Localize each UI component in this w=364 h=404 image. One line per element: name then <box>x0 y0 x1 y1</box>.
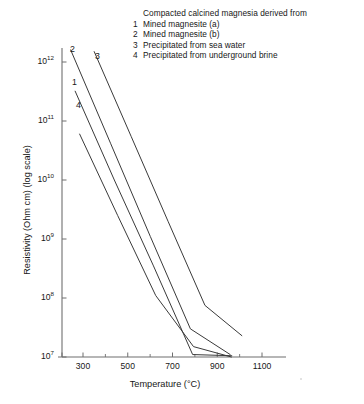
y-tick-exponent: 8 <box>51 290 54 297</box>
legend-item-label: Precipitated from sea water <box>143 40 361 51</box>
y-tick-mantissa: 10 <box>41 351 51 361</box>
x-tick-label: 900 <box>202 361 232 371</box>
curve-label-3: 3 <box>95 51 100 61</box>
y-tick-exponent: 7 <box>51 349 54 356</box>
legend-item-label: Mined magnesite (b) <box>143 29 361 40</box>
curve-label-4: 4 <box>76 100 81 110</box>
curve-3 <box>94 52 242 336</box>
chart-figure: Compacted calcined magnesia derived from… <box>0 0 364 404</box>
y-tick-label: 1012 <box>14 56 54 66</box>
curve-label-2: 2 <box>70 44 75 54</box>
x-tick-label: 500 <box>113 361 143 371</box>
legend-item-number: 1 <box>133 19 143 30</box>
y-tick-mantissa: 10 <box>38 174 48 184</box>
data-curves <box>71 50 242 357</box>
y-tick-label: 108 <box>14 292 54 302</box>
y-tick-mantissa: 10 <box>38 56 48 66</box>
y-axis-title: Resistivity (Ohm cm) (log scale) <box>22 110 32 310</box>
y-tick-label: 1010 <box>14 174 54 184</box>
y-tick-label: 1011 <box>14 115 54 125</box>
x-axis-title: Temperature (°C) <box>0 379 330 389</box>
curve-1 <box>75 91 232 356</box>
legend-item-number: 2 <box>133 29 143 40</box>
y-tick-label: 109 <box>14 233 54 243</box>
curve-4 <box>80 134 232 357</box>
chart-legend: Compacted calcined magnesia derived from… <box>133 8 361 61</box>
y-tick-mantissa: 10 <box>41 292 51 302</box>
curve-2 <box>71 50 231 355</box>
page-speck <box>300 378 302 380</box>
y-tick-exponent: 11 <box>48 113 54 120</box>
legend-item-label: Precipitated from underground brine <box>143 50 361 61</box>
x-tick-label: 300 <box>68 361 98 371</box>
x-tick-label: 1100 <box>247 361 277 371</box>
curve-label-1: 1 <box>72 77 77 87</box>
y-tick-mantissa: 10 <box>38 115 48 125</box>
y-tick-exponent: 9 <box>51 231 54 238</box>
legend-item-label: Mined magnesite (a) <box>143 19 361 30</box>
y-tick-label: 107 <box>14 351 54 361</box>
legend-item-1: 1 Mined magnesite (a) <box>133 19 361 30</box>
y-tick-exponent: 10 <box>47 172 54 179</box>
legend-item-2: 2 Mined magnesite (b) <box>133 29 361 40</box>
legend-item-4: 4 Precipitated from underground brine <box>133 50 361 61</box>
legend-item-3: 3 Precipitated from sea water <box>133 40 361 51</box>
y-tick-mantissa: 10 <box>41 233 51 243</box>
legend-item-number: 4 <box>133 50 143 61</box>
x-tick-label: 700 <box>158 361 188 371</box>
legend-item-number: 3 <box>133 40 143 51</box>
legend-title: Compacted calcined magnesia derived from <box>133 8 361 19</box>
axis-lines <box>58 48 286 357</box>
axis-ticks <box>62 62 262 357</box>
y-tick-exponent: 12 <box>47 54 54 61</box>
